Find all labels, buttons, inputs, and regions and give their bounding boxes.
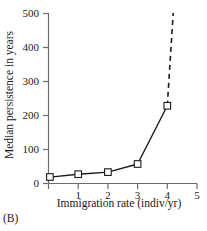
x-axis-title: Immigration rate (indiv/yr) — [34, 197, 204, 209]
data-point-marker — [75, 171, 82, 178]
data-line-dashed-extrapolation — [167, 13, 173, 106]
data-line-solid — [50, 106, 167, 177]
y-axis-title: Median persistence in years — [2, 0, 16, 190]
data-point-marker — [164, 103, 171, 110]
panel-label: (B) — [3, 212, 18, 224]
y-tick-marks — [43, 14, 49, 184]
data-markers — [47, 103, 171, 181]
data-point-marker — [134, 161, 141, 168]
data-point-marker — [47, 174, 54, 181]
data-point-marker — [105, 169, 112, 176]
figure-panel-b: 500 400 300 200 100 0 1 2 3 4 5 Median p… — [0, 0, 207, 231]
